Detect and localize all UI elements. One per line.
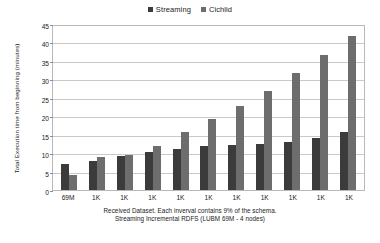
bar-streaming (89, 161, 97, 191)
legend-swatch-icon (148, 7, 153, 12)
legend-entry-streaming: Streaming (148, 5, 191, 14)
legend-label: Cichlid (209, 5, 232, 14)
chart-legend: StreamingCichlid (0, 5, 380, 14)
y-tick-label: 15 (42, 133, 49, 140)
bar-cichlid (97, 157, 105, 190)
y-tick-label: 0 (45, 189, 49, 196)
x-tick-label: 1K (110, 193, 138, 202)
bar-group (195, 26, 223, 190)
bar-group (250, 26, 278, 190)
bar-group (334, 26, 362, 190)
y-tick-label: 40 (42, 41, 49, 48)
y-tick-mark (50, 191, 53, 192)
bar-cichlid (69, 175, 77, 190)
y-tick-label: 10 (42, 152, 49, 159)
x-tick-label: 1K (194, 193, 222, 202)
y-tick-label: 35 (42, 59, 49, 66)
bar-cichlid (208, 119, 216, 190)
x-tick-label: 1K (251, 193, 279, 202)
y-tick-label: 25 (42, 96, 49, 103)
x-tick-label: 1K (279, 193, 307, 202)
bar-group (222, 26, 250, 190)
bar-cichlid (264, 91, 272, 190)
x-tick-label: 1K (307, 193, 335, 202)
bar-streaming (173, 149, 181, 190)
bar-cichlid (236, 106, 244, 190)
x-tick-label: 1K (138, 193, 166, 202)
legend-label: Streaming (156, 5, 191, 14)
bar-group (139, 26, 167, 190)
legend-entry-cichlid: Cichlid (201, 5, 232, 14)
y-tick-label: 30 (42, 78, 49, 85)
bar-streaming (228, 145, 236, 190)
bar-cichlid (292, 73, 300, 190)
y-axis-title: Total Execution time from beginning (min… (13, 21, 20, 197)
bar-cichlid (125, 155, 133, 190)
y-tick-label: 45 (42, 23, 49, 30)
caption-line-1: Received Dataset. Each inverval contains… (0, 207, 380, 215)
bar-streaming (284, 142, 292, 190)
bar-streaming (145, 152, 153, 190)
bar-cichlid (153, 146, 161, 190)
bar-group (306, 26, 334, 190)
x-axis-ticks: 69M1K1K1K1K1K1K1K1K1K1K (52, 193, 365, 202)
bar-series-container (53, 26, 364, 190)
bar-streaming (340, 132, 348, 190)
bar-cichlid (348, 36, 356, 190)
bar-cichlid (320, 55, 328, 190)
plot-area: 051015202530354045 (52, 25, 365, 191)
caption-line-2: Streaming Incremental RDFS (LUBM 69M - 4… (0, 215, 380, 223)
x-tick-label: 1K (82, 193, 110, 202)
bar-group (111, 26, 139, 190)
bar-chart: StreamingCichlid Total Execution time fr… (0, 0, 380, 243)
bar-group (278, 26, 306, 190)
x-tick-label: 1K (223, 193, 251, 202)
bar-streaming (117, 156, 125, 190)
y-tick-label: 20 (42, 115, 49, 122)
y-tick-label: 5 (45, 170, 49, 177)
bar-cichlid (181, 132, 189, 190)
x-tick-label: 1K (335, 193, 363, 202)
x-tick-label: 69M (54, 193, 82, 202)
bar-streaming (312, 138, 320, 190)
bar-streaming (200, 146, 208, 190)
chart-caption: Received Dataset. Each inverval contains… (0, 207, 380, 224)
bar-group (55, 26, 83, 190)
bar-group (83, 26, 111, 190)
legend-swatch-icon (201, 7, 206, 12)
bar-streaming (256, 144, 264, 190)
bar-streaming (61, 164, 69, 190)
bar-group (167, 26, 195, 190)
x-tick-label: 1K (166, 193, 194, 202)
